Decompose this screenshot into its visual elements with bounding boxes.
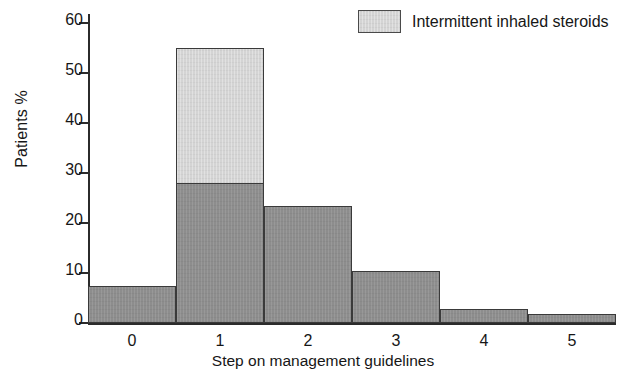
x-axis-tick-label: 3 <box>366 332 426 350</box>
legend-swatch-intermittent-inhaled-steroids <box>358 10 401 33</box>
bar-segment <box>176 182 264 323</box>
y-axis-tick-label: 10 <box>65 261 83 279</box>
y-axis-tick-label: 20 <box>65 211 83 229</box>
y-axis-tick-label: 50 <box>65 61 83 79</box>
bar-segment <box>528 314 616 323</box>
plot-area: 0102030405060 012345 <box>88 14 616 325</box>
bar-segment <box>264 206 352 323</box>
y-axis-tick-label: 40 <box>65 111 83 129</box>
y-axis-label: Patients % <box>13 59 31 199</box>
x-axis-tick-label: 4 <box>454 332 514 350</box>
bar-segment <box>176 48 264 184</box>
bar-group <box>352 12 440 323</box>
bar-group <box>528 12 616 323</box>
bar-group <box>176 12 264 323</box>
chart-legend: Intermittent inhaled steroids <box>358 10 609 33</box>
bar-segment <box>88 286 176 323</box>
x-axis-line <box>88 323 616 325</box>
y-axis-tick-label: 30 <box>65 161 83 179</box>
y-axis-tick-label: 60 <box>65 11 83 29</box>
x-axis-tick-label: 2 <box>278 332 338 350</box>
bar-group <box>264 12 352 323</box>
chart-figure: Patients % 0102030405060 012345 Step on … <box>0 0 626 380</box>
bar-group <box>440 12 528 323</box>
x-axis-tick-label: 5 <box>542 332 602 350</box>
bar-segment <box>352 271 440 323</box>
legend-label-intermittent-inhaled-steroids: Intermittent inhaled steroids <box>412 13 609 31</box>
x-axis-tick-label: 1 <box>190 332 250 350</box>
x-axis-label: Step on management guidelines <box>88 352 558 370</box>
x-axis-tick-label: 0 <box>102 332 162 350</box>
y-axis-tick-label: 0 <box>74 311 83 329</box>
bar-segment <box>440 309 528 323</box>
bar-group <box>88 12 176 323</box>
